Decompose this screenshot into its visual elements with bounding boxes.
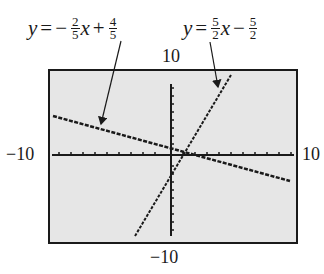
graph [0,0,324,274]
